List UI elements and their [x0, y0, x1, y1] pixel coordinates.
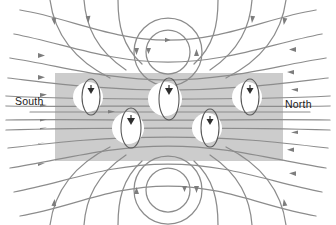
south-pole-label: South — [15, 96, 43, 107]
field-line-outer-top-1 — [20, 10, 316, 40]
direction-arrow-icon — [289, 47, 296, 52]
direction-arrow-icon — [287, 70, 294, 75]
direction-arrow-icon — [38, 75, 45, 80]
direction-arrow-icon — [282, 18, 288, 26]
field-line-sweep-botright-3 — [194, 161, 218, 225]
direction-arrow-icon — [250, 16, 255, 23]
closed-loop-bottom-outer — [134, 156, 202, 224]
direction-arrow-icon — [194, 186, 199, 193]
direction-arrow-icon — [38, 53, 45, 58]
direction-arrow-icon — [289, 171, 296, 176]
field-line-sweep-topleft-1 — [50, 0, 110, 78]
closed-loop-top-inner — [146, 30, 190, 74]
north-pole-label: North — [285, 99, 312, 110]
field-line-sweep-botright-2 — [210, 155, 252, 225]
direction-arrow-icon — [146, 48, 151, 54]
direction-arrow-icon — [282, 199, 288, 207]
direction-arrow-icon — [291, 88, 298, 92]
direction-arrow-icon — [287, 148, 294, 152]
direction-arrow-icon — [134, 48, 139, 55]
direction-arrow-icon — [182, 186, 187, 192]
magnetic-field-figure: South North — [0, 0, 336, 225]
field-line-sweep-topright-1 — [226, 0, 286, 78]
direction-arrow-icon — [194, 49, 199, 56]
field-line-outer-top-2 — [14, 34, 322, 62]
closed-loop-bottom-inner — [146, 168, 190, 212]
direction-arrow-icon — [291, 130, 298, 134]
field-line-sweep-botleft-2 — [84, 155, 126, 225]
field-line-canvas — [0, 0, 336, 225]
direction-arrow-icon — [86, 16, 91, 23]
field-line-sweep-topleft-3 — [118, 0, 142, 64]
